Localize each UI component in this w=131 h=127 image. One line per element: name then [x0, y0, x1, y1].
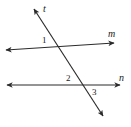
- geometry-figure: t m n 1 2 3: [0, 0, 131, 127]
- angle-label-2: 2: [66, 74, 71, 83]
- angle-label-3: 3: [92, 88, 97, 97]
- line-label-m: m: [108, 29, 115, 39]
- line-t: [34, 9, 103, 116]
- geometry-canvas: [0, 0, 131, 127]
- line-label-t: t: [43, 4, 46, 14]
- angle-label-1: 1: [42, 36, 47, 45]
- line-label-n: n: [119, 73, 124, 83]
